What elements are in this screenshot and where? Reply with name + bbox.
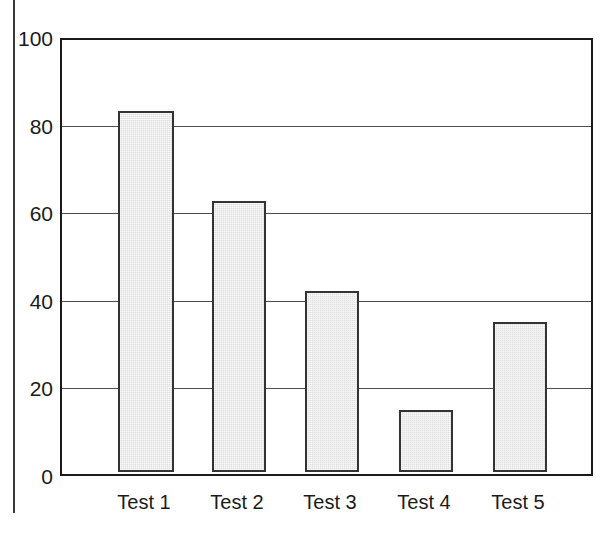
y-tick-label-0: 0 <box>5 466 53 487</box>
x-axis: Test 1 Test 2 Test 3 Test 4 Test 5 <box>60 489 593 515</box>
bar-test-2[interactable] <box>212 201 266 472</box>
plot-area <box>60 38 593 476</box>
bar-test-5[interactable] <box>493 322 547 473</box>
x-tick-label-test-5: Test 5 <box>491 489 544 515</box>
y-tick-label-20: 20 <box>5 378 53 399</box>
y-tick-label-80: 80 <box>5 115 53 136</box>
bar-test-1[interactable] <box>118 111 174 472</box>
y-tick-label-40: 40 <box>5 290 53 311</box>
y-tick-label-100: 100 <box>5 28 53 49</box>
y-axis: 100 80 60 40 20 0 <box>0 38 53 476</box>
x-tick-label-test-2: Test 2 <box>210 489 263 515</box>
bar-test-3[interactable] <box>305 291 359 472</box>
x-tick-label-test-1: Test 1 <box>117 489 170 515</box>
chart-page: 100 80 60 40 20 0 Test 1 Test 2 Test 3 T… <box>0 0 613 545</box>
bar-test-4[interactable] <box>399 410 453 472</box>
x-tick-label-test-4: Test 4 <box>397 489 450 515</box>
x-tick-label-test-3: Test 3 <box>303 489 356 515</box>
y-tick-label-60: 60 <box>5 203 53 224</box>
bars-layer <box>64 42 589 472</box>
